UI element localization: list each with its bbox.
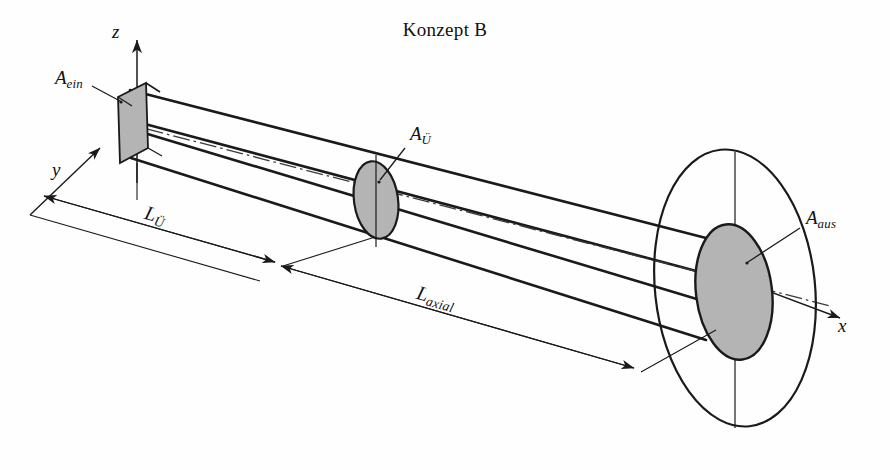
exit-aperture-label: Aaus (806, 208, 836, 231)
entrance-aperture-shape (118, 83, 162, 163)
axis-y (30, 148, 100, 215)
diagram-svg (0, 0, 890, 470)
figure-title: Konzept B (0, 20, 890, 39)
dimension-axial-length (281, 266, 716, 372)
transfer-aperture-label-base: A (410, 123, 422, 144)
axis-label-z: z (112, 22, 119, 41)
entrance-aperture-label-base: A (55, 67, 67, 88)
exit-aperture-shape (688, 220, 780, 364)
entrance-aperture-label-subscript: ein (67, 76, 83, 91)
transfer-aperture-label: AÜ (410, 124, 431, 147)
exit-aperture-label-base: A (806, 207, 818, 228)
figure-canvas: Konzept B z y x Aein AÜ Aaus LÜ Laxial (0, 0, 890, 470)
exit-aperture-label-subscript: aus (818, 216, 837, 231)
axis-label-x: x (838, 316, 846, 335)
entrance-aperture-label: Aein (55, 68, 83, 91)
transfer-aperture-label-subscript: Ü (422, 132, 432, 147)
dimension-transfer-length (44, 196, 372, 266)
transfer-aperture-shape (349, 155, 403, 247)
axis-label-y: y (52, 160, 60, 179)
